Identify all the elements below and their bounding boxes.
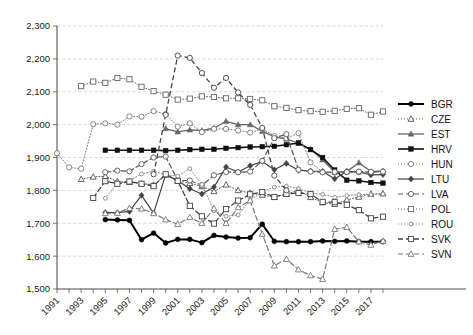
legend-label-ltu: LTU bbox=[431, 174, 449, 185]
data-point bbox=[127, 218, 132, 223]
data-point bbox=[236, 145, 241, 150]
x-axis-label: 2007 bbox=[232, 295, 255, 318]
data-point bbox=[115, 168, 120, 173]
y-axis-label: 2,200 bbox=[26, 53, 50, 64]
data-point bbox=[296, 108, 301, 113]
data-point bbox=[332, 176, 337, 182]
legend-item-svk[interactable]: SVK bbox=[398, 234, 451, 245]
data-point bbox=[211, 94, 216, 99]
data-point bbox=[380, 169, 385, 174]
data-point bbox=[344, 202, 349, 207]
data-point bbox=[91, 122, 96, 127]
data-point bbox=[259, 231, 265, 236]
data-point bbox=[356, 106, 361, 111]
data-point bbox=[321, 192, 325, 196]
y-axis-label: 1,700 bbox=[26, 218, 50, 229]
data-point bbox=[248, 96, 253, 101]
data-point bbox=[260, 144, 265, 149]
legend-item-cze[interactable]: CZE bbox=[398, 114, 451, 125]
legend-item-bgr[interactable]: BGR bbox=[398, 99, 453, 110]
data-point bbox=[320, 199, 325, 204]
legend-item-hun[interactable]: HUN bbox=[398, 159, 453, 170]
data-point bbox=[211, 173, 216, 178]
data-point bbox=[284, 132, 289, 137]
data-point bbox=[308, 160, 313, 165]
legend-item-lva[interactable]: LVA bbox=[398, 189, 449, 200]
data-point bbox=[223, 126, 228, 131]
x-axis-label: 1993 bbox=[63, 295, 86, 318]
data-point bbox=[151, 109, 156, 114]
data-point bbox=[187, 237, 192, 242]
series-hun bbox=[54, 109, 385, 176]
data-point bbox=[284, 105, 289, 110]
y-axis-label: 1,800 bbox=[26, 185, 50, 196]
data-point bbox=[332, 200, 337, 205]
data-point bbox=[320, 239, 325, 244]
series-line-hrv bbox=[105, 143, 383, 183]
data-point bbox=[187, 96, 192, 101]
data-point bbox=[163, 148, 168, 153]
series-hrv bbox=[103, 141, 385, 186]
data-point bbox=[78, 176, 84, 181]
x-axis-label: 2009 bbox=[256, 295, 279, 318]
data-point bbox=[139, 114, 144, 119]
data-point bbox=[272, 239, 277, 244]
data-point bbox=[211, 221, 216, 226]
data-point bbox=[284, 142, 289, 147]
data-point bbox=[344, 239, 349, 244]
data-point bbox=[140, 172, 144, 176]
series-cze bbox=[78, 172, 386, 207]
data-point bbox=[199, 70, 204, 75]
y-axis-label: 1,600 bbox=[26, 251, 50, 262]
data-point bbox=[139, 161, 144, 166]
data-point bbox=[115, 148, 120, 153]
legend-item-est[interactable]: EST bbox=[398, 129, 450, 140]
data-point bbox=[284, 188, 289, 193]
series-line-bgr bbox=[105, 220, 383, 243]
data-point bbox=[115, 122, 120, 127]
data-point bbox=[187, 203, 192, 208]
data-point bbox=[248, 102, 253, 107]
data-point bbox=[380, 214, 385, 219]
data-point bbox=[54, 151, 59, 156]
data-point bbox=[357, 179, 362, 184]
data-point bbox=[248, 235, 253, 240]
data-point bbox=[236, 90, 241, 95]
series-line-ltu bbox=[105, 161, 383, 213]
data-point bbox=[223, 118, 229, 123]
data-point bbox=[103, 170, 108, 175]
legend-item-hrv[interactable]: HRV bbox=[398, 144, 452, 155]
data-point bbox=[79, 84, 84, 89]
data-point bbox=[187, 55, 192, 60]
series-line-svn bbox=[105, 201, 383, 280]
data-point bbox=[284, 239, 289, 244]
data-point bbox=[409, 222, 413, 226]
legend-label-rou: ROU bbox=[431, 219, 453, 230]
data-point bbox=[151, 172, 156, 177]
data-point bbox=[163, 154, 168, 159]
data-point bbox=[79, 166, 84, 171]
legend-item-pol[interactable]: POL bbox=[398, 204, 451, 215]
data-point bbox=[66, 165, 71, 170]
legend-item-svn[interactable]: SVN bbox=[398, 249, 452, 260]
data-point bbox=[369, 193, 373, 197]
data-point bbox=[175, 97, 180, 102]
series-lva bbox=[103, 132, 386, 188]
series-pol bbox=[79, 75, 386, 117]
legend-item-ltu[interactable]: LTU bbox=[398, 174, 449, 185]
data-point bbox=[283, 256, 289, 261]
data-point bbox=[212, 233, 217, 238]
data-point bbox=[199, 94, 204, 99]
data-point bbox=[369, 180, 374, 185]
data-point bbox=[381, 192, 385, 196]
data-point bbox=[139, 84, 144, 89]
legend-label-hrv: HRV bbox=[431, 144, 452, 155]
data-point bbox=[151, 155, 156, 160]
data-point bbox=[236, 213, 240, 217]
data-point bbox=[296, 239, 301, 244]
data-point bbox=[224, 235, 229, 240]
legend-item-rou[interactable]: ROU bbox=[398, 219, 453, 230]
x-axis-label: 2003 bbox=[184, 295, 207, 318]
data-point bbox=[139, 237, 144, 242]
data-point bbox=[224, 214, 228, 218]
